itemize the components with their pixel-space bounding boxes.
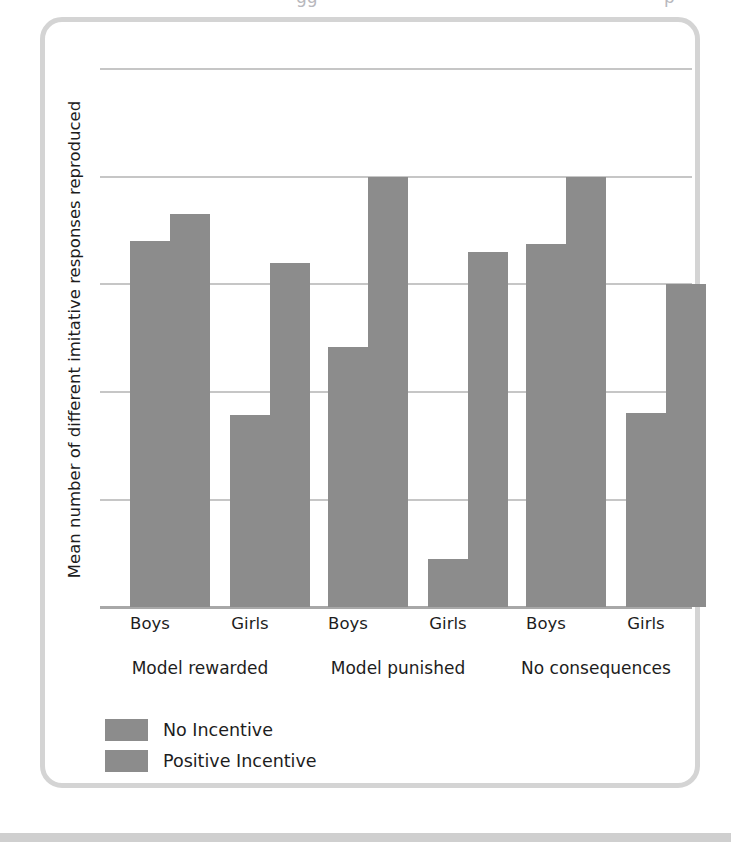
- x-label-no-consequences-boys: Boys: [506, 614, 586, 633]
- bar-no-consequences-boys-positive-incentive: [566, 177, 606, 607]
- plot-area: 5 4 3 2 1 0: [100, 68, 692, 607]
- group-label-model-rewarded: Model rewarded: [110, 658, 290, 678]
- legend-item-positive-incentive: Positive Incentive: [105, 745, 317, 776]
- y-axis-title: Mean number of different imitative respo…: [65, 60, 84, 620]
- bar-model-rewarded-boys-no-incentive: [130, 241, 170, 607]
- bar-no-consequences-girls-positive-incentive: [666, 284, 706, 607]
- legend-label-positive-incentive: Positive Incentive: [163, 751, 317, 771]
- x-label-model-rewarded-boys: Boys: [110, 614, 190, 633]
- bar-no-consequences-boys-no-incentive: [526, 244, 566, 607]
- chart-legend: No Incentive Positive Incentive: [105, 714, 317, 776]
- group-label-no-consequences: No consequences: [506, 658, 686, 678]
- bar-model-punished-boys-positive-incentive: [368, 177, 408, 607]
- x-label-model-rewarded-girls: Girls: [210, 614, 290, 633]
- bar-model-punished-girls-no-incentive: [428, 559, 468, 607]
- x-label-model-punished-boys: Boys: [308, 614, 388, 633]
- bar-no-consequences-girls-no-incentive: [626, 413, 666, 607]
- bar-model-rewarded-girls-positive-incentive: [270, 263, 310, 607]
- legend-item-no-incentive: No Incentive: [105, 714, 317, 745]
- group-label-model-punished: Model punished: [308, 658, 488, 678]
- legend-swatch-no-incentive: [105, 719, 148, 741]
- gridline-5: [100, 68, 692, 70]
- bar-model-rewarded-girls-no-incentive: [230, 415, 270, 607]
- bar-model-punished-girls-positive-incentive: [468, 252, 508, 607]
- x-label-no-consequences-girls: Girls: [606, 614, 686, 633]
- legend-swatch-positive-incentive: [105, 750, 148, 772]
- legend-label-no-incentive: No Incentive: [163, 720, 273, 740]
- bar-model-rewarded-boys-positive-incentive: [170, 214, 210, 607]
- bottom-separator-band: [0, 833, 731, 842]
- bar-chart: Mean number of different imitative respo…: [0, 0, 731, 849]
- bar-model-punished-boys-no-incentive: [328, 347, 368, 607]
- x-label-model-punished-girls: Girls: [408, 614, 488, 633]
